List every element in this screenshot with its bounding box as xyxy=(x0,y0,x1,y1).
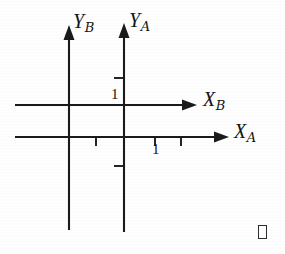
y-axis-a-label-subscript: A xyxy=(141,19,151,34)
x-axis-b-label-subscript: B xyxy=(216,98,226,113)
y-axis-a-label: YA xyxy=(129,10,150,33)
x-axis-a-label-main: X xyxy=(234,120,246,142)
x-axis-b-label-main: X xyxy=(203,88,215,110)
x-axis-b-group xyxy=(15,100,197,111)
y-axis-a-arrowhead xyxy=(119,23,130,38)
x-axis-b-arrowhead xyxy=(182,100,197,111)
x-axis-a-group xyxy=(15,132,229,147)
x-axis-a-arrowhead xyxy=(214,132,229,143)
y-axis-a-group xyxy=(114,23,130,232)
x-axis-b-label: XB xyxy=(203,89,225,112)
y-axis-a-label-main: Y xyxy=(129,9,140,31)
y-axis-b-label: YB xyxy=(73,11,94,34)
y-axis-b-label-subscript: B xyxy=(85,20,95,35)
x-axis-a-label: XA xyxy=(234,121,256,144)
y-axis-a-unit-label: 1 xyxy=(111,87,119,102)
coordinate-frames-figure: YB YA XB XA 1 1 xyxy=(0,0,285,254)
x-axis-a-unit-label: 1 xyxy=(152,142,160,157)
x-axis-a-label-subscript: A xyxy=(247,130,257,145)
y-axis-b-label-main: Y xyxy=(73,10,84,32)
missing-glyph-box xyxy=(258,225,267,239)
y-axis-b-group xyxy=(64,25,75,230)
